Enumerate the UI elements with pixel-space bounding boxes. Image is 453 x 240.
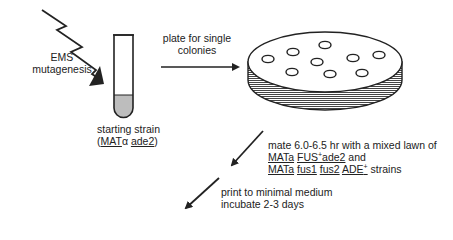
mate-step-line3: MATa fus1 fus2 ADE+ strains bbox=[268, 163, 437, 175]
starting-strain-label: starting strain (MATα ade2) bbox=[97, 123, 160, 147]
plate-step-label: plate for single colonies bbox=[153, 32, 241, 56]
mutagenesis-line1: EMS bbox=[22, 51, 102, 63]
print-step-label: print to minimal medium incubate 2-3 day… bbox=[221, 186, 332, 210]
test-tube-icon bbox=[113, 35, 134, 118]
mutagenesis-line2: mutagenesis bbox=[22, 63, 102, 75]
mate-step-line2: MATa FUS+ade2 and bbox=[268, 151, 437, 163]
print-step-line2: incubate 2-3 days bbox=[221, 198, 332, 210]
mate-step-label: mate 6.0-6.5 hr with a mixed lawn of MAT… bbox=[268, 139, 437, 175]
mate-arrow-icon bbox=[232, 131, 263, 165]
mutagenesis-label: EMS mutagenesis bbox=[22, 51, 102, 75]
plate-step-line2: colonies bbox=[153, 44, 241, 56]
print-arrow-icon bbox=[186, 178, 219, 208]
starting-strain-genotype: (MATα ade2) bbox=[97, 135, 160, 147]
plate-step-line1: plate for single bbox=[153, 32, 241, 44]
starting-strain-title: starting strain bbox=[97, 123, 160, 135]
print-step-line1: print to minimal medium bbox=[221, 186, 332, 198]
mate-step-line1: mate 6.0-6.5 hr with a mixed lawn of bbox=[268, 139, 437, 151]
petri-dish-icon bbox=[248, 32, 402, 110]
